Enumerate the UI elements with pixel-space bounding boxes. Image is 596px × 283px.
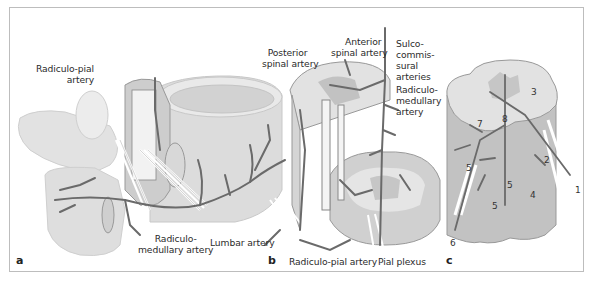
articular-process [76,91,108,139]
panel-letter-a: a [16,254,23,267]
callout-6: 6 [450,238,456,248]
callout-2: 2 [544,155,550,165]
callout-4: 4 [530,190,536,200]
callout-3: 3 [531,87,537,97]
label-radiculo-medullary-artery-b: Radiculo- medullary artery [396,84,441,117]
panel-c-illustration [447,60,570,243]
panel-letter-b: b [268,254,276,267]
label-anterior-spinal-artery: Anterior spinal artery [331,36,388,58]
callout-5a: 5 [466,163,472,173]
callout-5c: 5 [492,201,498,211]
callout-5b: 5 [507,180,513,190]
label-radiculo-pial-artery-a: Radiculo-pial artery [36,63,94,85]
label-radiculo-medullary-artery-a: Radiculo- medullary artery [138,233,213,255]
panel-letter-c: c [446,254,453,267]
callout-8: 8 [502,114,508,124]
label-pial-plexus: Pial plexus [378,256,426,267]
label-sulcocommissural-arteries: Sulco- commis- sural arteries [396,38,435,82]
label-radiculo-pial-artery-b: Radiculo-pial artery [289,256,377,267]
callout-7: 7 [477,119,483,129]
label-posterior-spinal-artery: Posterior spinal artery [262,47,319,69]
panel-a-illustration [18,76,285,256]
callout-1: 1 [575,185,581,195]
anatomy-illustration [0,0,596,283]
label-lumbar-artery: Lumbar artery [210,237,274,248]
